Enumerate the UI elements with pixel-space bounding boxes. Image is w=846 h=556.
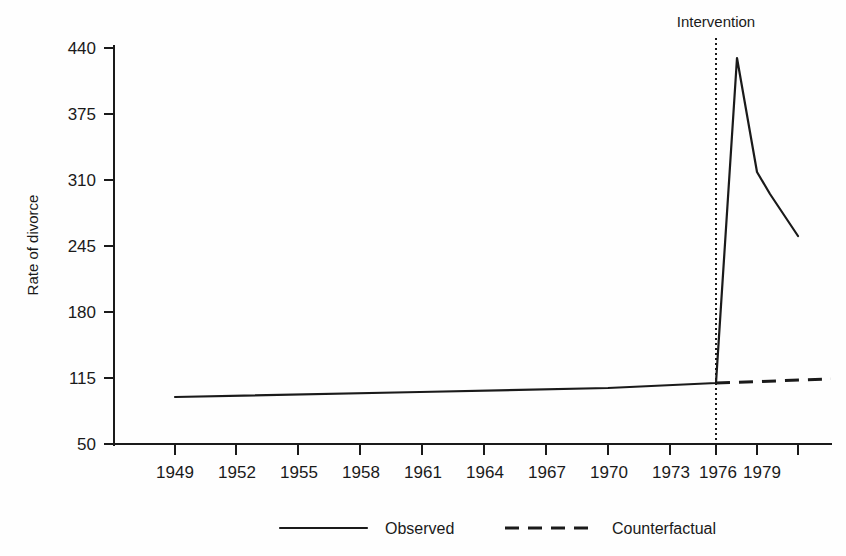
x-axis-ticks <box>175 444 798 455</box>
y-tick-label-115: 115 <box>69 369 96 388</box>
chart-legend: Observed Counterfactual <box>280 520 716 537</box>
x-tick-label-1976: 1976 <box>699 463 737 482</box>
x-tick-label-1949: 1949 <box>156 463 194 482</box>
x-tick-label-1964: 1964 <box>466 463 504 482</box>
chart-canvas: 440 375 310 245 180 115 50 Rate of divor… <box>0 0 846 556</box>
y-tick-label-245: 245 <box>68 237 96 256</box>
y-tick-label-310: 310 <box>68 171 96 190</box>
legend-label-observed: Observed <box>385 520 454 537</box>
y-tick-label-440: 440 <box>68 39 96 58</box>
y-axis-ticks <box>104 48 114 444</box>
x-tick-label-1973: 1973 <box>652 463 690 482</box>
x-tick-label-1952: 1952 <box>218 463 256 482</box>
intervention-label: Intervention <box>677 13 755 30</box>
y-axis-title: Rate of divorce <box>24 195 41 296</box>
chart-figure: 440 375 310 245 180 115 50 Rate of divor… <box>0 0 846 556</box>
x-tick-label-1970: 1970 <box>590 463 628 482</box>
series-line-counterfactual <box>716 379 831 383</box>
y-tick-label-375: 375 <box>68 105 96 124</box>
x-axis-tick-labels: 1949 1952 1955 1958 1961 1964 1967 1970 … <box>156 463 781 482</box>
legend-label-counterfactual: Counterfactual <box>612 520 716 537</box>
series-line-observed <box>175 58 798 397</box>
x-tick-label-1979: 1979 <box>743 463 781 482</box>
y-tick-label-50: 50 <box>77 435 96 454</box>
intervention-annotation: Intervention <box>677 13 755 452</box>
y-axis-tick-labels: 440 375 310 245 180 115 50 <box>68 39 96 454</box>
y-tick-label-180: 180 <box>68 303 96 322</box>
x-tick-label-1967: 1967 <box>528 463 566 482</box>
x-tick-label-1955: 1955 <box>280 463 318 482</box>
x-tick-label-1958: 1958 <box>342 463 380 482</box>
x-tick-label-1961: 1961 <box>404 463 442 482</box>
